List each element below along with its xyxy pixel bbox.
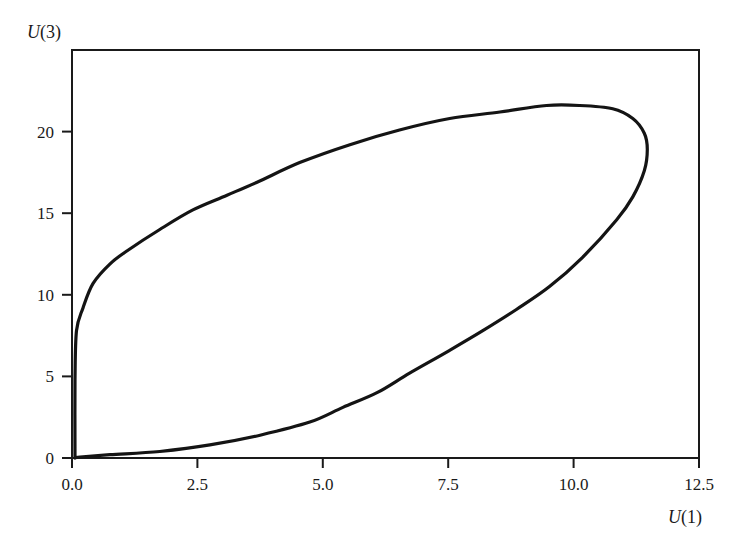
x-axis-label: U(1) — [668, 507, 702, 528]
x-tick-label: 12.5 — [684, 475, 714, 494]
x-tick-label: 7.5 — [438, 475, 459, 494]
x-axis-ticks: 0.02.55.07.510.012.5 — [61, 458, 714, 494]
data-series — [75, 105, 647, 458]
y-axis-label-var: U — [27, 22, 41, 42]
y-tick-label: 15 — [37, 204, 54, 223]
y-tick-label: 20 — [37, 123, 54, 142]
x-tick-label: 10.0 — [559, 475, 589, 494]
x-tick-label: 2.5 — [187, 475, 208, 494]
y-tick-label: 5 — [46, 367, 55, 386]
y-tick-label: 10 — [37, 286, 54, 305]
y-axis-label: U(3) — [27, 22, 61, 43]
x-tick-label: 5.0 — [312, 475, 333, 494]
svg-text:U(3): U(3) — [27, 22, 61, 43]
x-tick-label: 0.0 — [61, 475, 82, 494]
y-axis-label-arg: (3) — [40, 22, 61, 43]
y-axis-ticks: 05101520 — [37, 123, 72, 468]
y-tick-label: 0 — [46, 449, 55, 468]
plot-frame — [72, 50, 699, 458]
x-axis-label-arg: (1) — [681, 507, 702, 528]
svg-text:U(1): U(1) — [668, 507, 702, 528]
x-axis-label-var: U — [668, 507, 682, 527]
trajectory-curve — [75, 105, 647, 458]
phase-plot: U(3) U(1) 0.02.55.07.510.012.5 05101520 — [0, 0, 740, 555]
